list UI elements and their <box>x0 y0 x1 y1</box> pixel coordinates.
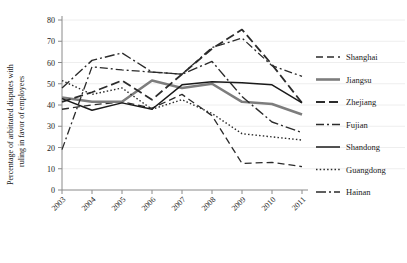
x-axis: 200320042005200620072008200920102011 <box>50 190 308 213</box>
legend-label-fujian: Fujian <box>346 120 368 130</box>
x-tick-label: 2010 <box>260 195 278 213</box>
y-tick-label: 30 <box>47 122 55 131</box>
x-tick-label: 2011 <box>290 195 307 212</box>
legend-label-guangdong: Guangdong <box>346 165 386 175</box>
y-tick-label: 10 <box>47 165 55 174</box>
legend-label-shandong: Shandong <box>346 142 381 152</box>
y-tick-label: 50 <box>47 80 55 89</box>
y-axis-title-line2: ruling in favor of employees <box>17 76 26 167</box>
x-tick-label: 2008 <box>200 195 218 213</box>
legend-label-jiangsu: Jiangsu <box>346 75 372 85</box>
x-tick-label: 2006 <box>140 195 158 213</box>
y-axis-title: Percentage of arbitrated disputes with r… <box>6 64 26 185</box>
legend-label-zhejiang: Zhejiang <box>346 97 377 107</box>
y-tick-label: 40 <box>47 101 55 110</box>
y-tick-label: 60 <box>47 59 55 68</box>
series-line-guangdong <box>62 81 302 141</box>
series-line-shandong <box>62 82 302 111</box>
x-tick-label: 2004 <box>80 195 98 213</box>
series-line-zhejiang <box>62 30 302 103</box>
series-lines <box>62 30 302 167</box>
y-tick-label: 0 <box>51 186 55 195</box>
x-tick-label: 2009 <box>230 195 248 213</box>
y-axis-title-line1: Percentage of arbitrated disputes with <box>6 64 15 185</box>
y-tick-label: 70 <box>47 37 55 46</box>
line-chart: Percentage of arbitrated disputes with r… <box>0 0 407 263</box>
series-line-hainan <box>62 53 302 133</box>
legend-label-shanghai: Shanghai <box>346 52 378 62</box>
chart-legend: ShanghaiJiangsuZhejiangFujianShandongGua… <box>316 52 386 197</box>
legend-label-hainan: Hainan <box>346 187 371 197</box>
x-tick-label: 2003 <box>50 195 68 213</box>
chart-container: Percentage of arbitrated disputes with r… <box>0 0 407 263</box>
y-tick-label: 20 <box>47 144 55 153</box>
y-axis: 01020304050607080 <box>47 16 62 195</box>
x-tick-label: 2007 <box>170 195 188 213</box>
x-tick-label: 2005 <box>110 195 128 213</box>
y-tick-label: 80 <box>47 16 55 25</box>
